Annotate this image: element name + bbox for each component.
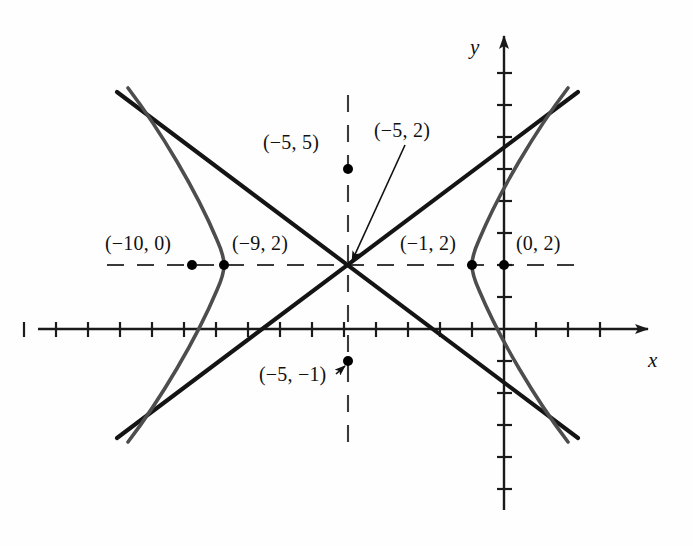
y-axis-label: y [470, 35, 479, 60]
hyperbola-figure: (−10, 0) (−9, 2) (−5, 5) (−5, 2) (−1, 2)… [0, 0, 693, 546]
graph-canvas [0, 0, 693, 546]
point-minus5-5[interactable] [343, 164, 353, 174]
point-label-minus10-0: (−10, 0) [105, 232, 171, 255]
point-minus9-2[interactable] [219, 260, 229, 270]
point-label-leader-line [336, 366, 345, 374]
point-0-2[interactable] [499, 260, 509, 270]
point-minus1-2[interactable] [467, 260, 477, 270]
hyperbola-right-branch [472, 88, 568, 442]
point-label-minus1-2: (−1, 2) [400, 232, 456, 255]
point-label-minus9-2: (−9, 2) [232, 232, 288, 255]
point-label-minus5-2: (−5, 2) [374, 119, 430, 142]
point-label-minus5-minus1: (−5, −1) [259, 363, 326, 386]
point-label-0-2: (0, 2) [516, 232, 561, 255]
point-minus5-minus1[interactable] [343, 356, 353, 366]
x-axis-label: x [648, 348, 657, 373]
point-minus10-0[interactable] [187, 260, 197, 270]
point-label-minus5-5: (−5, 5) [263, 131, 319, 154]
dashed-guides [107, 95, 587, 451]
